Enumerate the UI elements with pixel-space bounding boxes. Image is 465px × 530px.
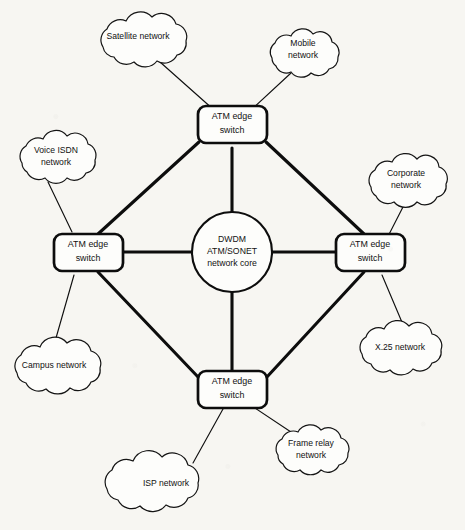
link-switch-west-to-switch-south <box>98 272 199 378</box>
cloud-x25-label: X.25 network <box>375 342 426 352</box>
switch-west: ATM edge switch <box>54 234 123 271</box>
leader-cloud-x25 <box>382 275 404 327</box>
switch-north: ATM edge switch <box>198 106 267 143</box>
cloud-voice-isdn-label-1: Voice ISDN <box>34 145 78 155</box>
cloud-voice-isdn-label-2: network <box>41 157 72 167</box>
network-topology-diagram: Satellite network Mobile network Voice I… <box>0 0 465 530</box>
switch-north-label-1: ATM edge <box>212 111 252 121</box>
link-switch-north-to-switch-east <box>266 142 364 234</box>
switch-west-label-1: ATM edge <box>68 239 108 249</box>
switch-east: ATM edge switch <box>336 234 405 271</box>
cloud-mobile-label-2: network <box>288 50 319 60</box>
cloud-isp: ISP network <box>105 451 199 512</box>
leader-cloud-mobile <box>251 73 291 110</box>
core-label-3: network core <box>207 258 257 268</box>
cloud-voice-isdn: Voice ISDN network <box>20 130 96 183</box>
switch-south: ATM edge switch <box>198 371 267 408</box>
cloud-mobile: Mobile network <box>270 29 339 77</box>
switch-south-label-1: ATM edge <box>212 376 252 386</box>
switch-west-label-2: switch <box>76 253 101 263</box>
leader-cloud-satellite <box>160 62 214 110</box>
cloud-isp-label: ISP network <box>143 478 190 488</box>
cloud-satellite: Satellite network <box>101 12 187 67</box>
cloud-corporate: Corporate network <box>369 154 447 208</box>
switch-east-label-1: ATM edge <box>350 239 390 249</box>
leader-cloud-campus <box>54 275 74 345</box>
cloud-campus: Campus network <box>15 337 101 394</box>
link-switch-north-to-switch-west <box>98 142 199 234</box>
cloud-corporate-label-1: Corporate <box>387 168 425 178</box>
cloud-mobile-label-1: Mobile <box>290 38 316 48</box>
switch-north-label-2: switch <box>220 125 245 135</box>
cloud-corporate-label-2: network <box>391 180 422 190</box>
switch-south-label-2: switch <box>220 390 245 400</box>
switch-east-label-2: switch <box>358 253 383 263</box>
cloud-frame-relay-label-1: Frame relay <box>288 438 335 448</box>
link-switch-east-to-switch-south <box>266 272 364 378</box>
diagram-canvas: Satellite network Mobile network Voice I… <box>0 0 465 530</box>
cloud-x25: X.25 network <box>360 321 442 375</box>
figure-caption-clipped <box>9 523 259 530</box>
core-label-1: DWDM <box>218 234 246 244</box>
cloud-frame-relay: Frame relay network <box>276 425 349 475</box>
cloud-campus-label: Campus network <box>22 360 87 370</box>
leader-cloud-voice-isdn <box>48 182 72 232</box>
leader-cloud-isp <box>193 400 228 463</box>
cloud-satellite-label: Satellite network <box>106 31 170 41</box>
core-label-2: ATM/SONET <box>207 246 258 256</box>
cloud-frame-relay-label-2: network <box>296 450 327 460</box>
core-node: DWDM ATM/SONET network core <box>192 212 272 292</box>
